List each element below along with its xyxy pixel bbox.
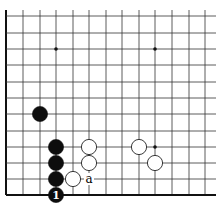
board-grid: [6, 10, 216, 195]
stone-move-number: 1: [52, 189, 60, 202]
white-stone-icon: [65, 171, 80, 186]
black-stone-icon: [48, 155, 63, 170]
black-stone-icon: [32, 106, 47, 121]
stones-layer: 1: [32, 106, 162, 202]
black-stone-icon: [48, 139, 63, 154]
go-board-diagram: 1 a: [0, 0, 216, 209]
point-label-a: a: [85, 172, 92, 186]
star-point-icon: [153, 145, 157, 149]
black-stone: [48, 155, 63, 170]
annotations-layer: a: [84, 172, 94, 186]
white-stone-icon: [131, 139, 146, 154]
white-stone: [81, 155, 96, 170]
black-stone: [48, 139, 63, 154]
star-point-icon: [153, 47, 157, 51]
star-point-icon: [54, 47, 58, 51]
white-stone: [65, 171, 80, 186]
white-stone-icon: [81, 155, 96, 170]
black-stone: [32, 106, 47, 121]
white-stone: [131, 139, 146, 154]
white-stone: [147, 155, 162, 170]
black-stone-icon: [48, 171, 63, 186]
white-stone: [81, 139, 96, 154]
black-stone: 1: [48, 187, 63, 202]
white-stone-icon: [147, 155, 162, 170]
white-stone-icon: [81, 139, 96, 154]
black-stone: [48, 171, 63, 186]
